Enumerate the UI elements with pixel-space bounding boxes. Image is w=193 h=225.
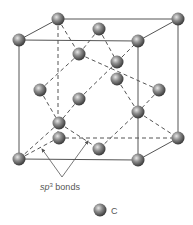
legend-carbon-atom-icon bbox=[94, 204, 107, 217]
carbon-atom bbox=[13, 34, 26, 47]
carbon-atom bbox=[93, 23, 106, 36]
carbon-atom bbox=[34, 84, 47, 97]
bond bbox=[99, 112, 138, 149]
carbon-atom bbox=[111, 73, 124, 86]
carbon-atom bbox=[153, 84, 166, 97]
legend: C bbox=[94, 204, 119, 217]
carbon-atom bbox=[172, 132, 185, 145]
carbon-atom bbox=[73, 93, 86, 106]
atoms bbox=[13, 13, 185, 167]
cube-edge bbox=[138, 138, 178, 160]
bond bbox=[40, 54, 79, 90]
cube-edge bbox=[138, 19, 178, 41]
carbon-atom bbox=[172, 13, 185, 26]
carbon-atom bbox=[111, 56, 124, 69]
carbon-atom bbox=[132, 154, 145, 167]
carbon-atom bbox=[53, 132, 66, 145]
cube-edge-hidden bbox=[19, 138, 58, 159]
carbon-atom bbox=[93, 143, 106, 156]
carbon-atom bbox=[53, 117, 66, 130]
annotation-arrow bbox=[42, 149, 62, 177]
carbon-atom bbox=[132, 106, 145, 119]
carbon-atom bbox=[132, 35, 145, 48]
diamond-structure-diagram: sp3 bonds C bbox=[0, 0, 193, 225]
carbon-atom bbox=[73, 48, 86, 61]
carbon-atom bbox=[52, 13, 65, 26]
cube-edge bbox=[19, 19, 58, 40]
sp3-bonds-label: sp3 bonds bbox=[40, 182, 80, 192]
carbon-atom bbox=[13, 153, 26, 166]
legend-label-carbon: C bbox=[111, 206, 118, 216]
bond bbox=[138, 112, 178, 138]
